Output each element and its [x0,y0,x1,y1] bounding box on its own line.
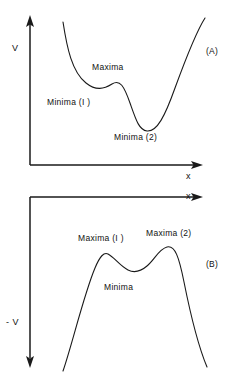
panel-a-group [26,15,205,169]
panel-a-minima-1-label: Minima (I ) [47,98,90,107]
panel-a-maxima-label: Maxima [92,63,124,72]
panel-a-tag: (A) [206,47,218,56]
panel-a-y-axis-label: V [12,44,19,53]
panel-b-inverted-potential-curve [63,247,207,371]
panel-b-tag: (B) [206,260,218,269]
panel-a-x-axis-label: x [186,172,191,181]
panel-b-x-axis-label: x [186,192,191,201]
panel-a-minima-2-label: Minima (2) [114,133,157,142]
figure-canvas [0,0,234,378]
panel-b-y-axis-label: - V [6,318,19,327]
panel-b-minima-label: Minima [104,283,133,292]
panel-b-maxima-2-label: Maxima (2) [146,229,192,238]
panel-a-potential-curve [63,18,205,131]
potential-energy-figure: V x Maxima Minima (I ) Minima (2) (A) x … [0,0,234,378]
panel-b-maxima-1-label: Maxima (I ) [78,234,124,243]
